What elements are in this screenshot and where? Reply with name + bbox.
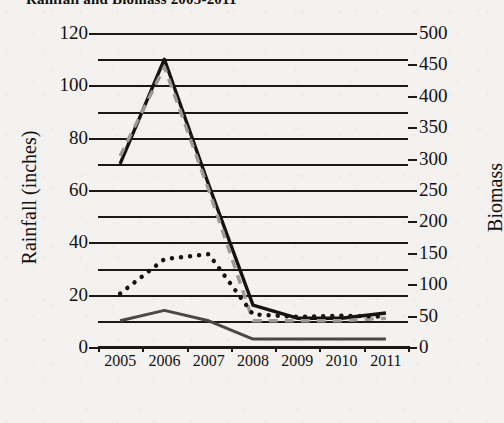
series-line-rainfall-solid-black xyxy=(120,59,386,318)
series-layer xyxy=(0,0,504,423)
series-line-rainfall-dashed-gray xyxy=(120,67,386,321)
series-line-biomass-solid-gray xyxy=(120,310,386,339)
series-line-biomass-dotted-black xyxy=(120,254,386,317)
chart-root: Rainfall and Biomass 2005-2011 020406080… xyxy=(0,0,504,423)
